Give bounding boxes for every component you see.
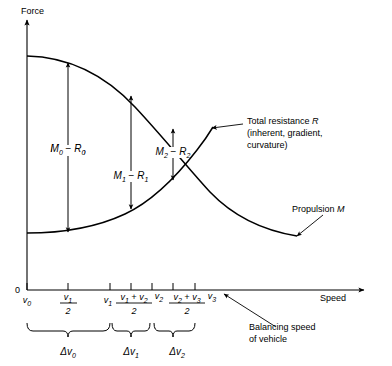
propulsion-leader-line (297, 215, 323, 236)
tick-label-v2: v2 (155, 291, 164, 303)
tick-label-v1-v2-half-den: 2 (130, 306, 136, 316)
tick-label-v1-v2-half: v1 + v2 2 (116, 292, 152, 316)
diagram-canvas: M0 − R0 M0 − R0 M1 − R1 M2 − R2 Force Sp… (0, 0, 392, 366)
delta-label-0: Δv0 (59, 346, 76, 359)
origin-label: 0 (15, 285, 20, 295)
brace-dv2 (154, 323, 195, 337)
x-axis-ticks (27, 283, 195, 290)
resistance-annotation-line3: curvature) (247, 140, 288, 150)
tick-label-v2-v3-half: v2 + v3 2 (169, 292, 205, 316)
gap-label-0-top: M0 − R0 (51, 143, 86, 156)
tick-label-v1-half-den: 2 (64, 306, 70, 316)
propulsion-annotation: Propulsion M (292, 204, 345, 214)
force-speed-diagram: M0 − R0 M0 − R0 M1 − R1 M2 − R2 Force Sp… (0, 0, 392, 366)
resistance-annotation-line2: (inherent, gradient, (247, 128, 323, 138)
brace-dv0 (27, 323, 110, 337)
delta-label-2: Δv2 (168, 346, 185, 359)
tick-label-v2-v3-half-num: v2 + v3 (173, 292, 200, 304)
tick-label-v1-v2-half-num: v1 + v2 (120, 292, 147, 304)
balancing-speed-line2: of vehicle (249, 334, 287, 344)
y-axis-label: Force (21, 6, 44, 16)
balancing-speed-line1: Balancing speed (249, 322, 316, 332)
braces-group (27, 323, 195, 337)
tick-label-v1-half-num: v1 (64, 292, 73, 304)
tick-label-v0: v0 (23, 295, 32, 307)
tick-label-v1: v1 (104, 295, 113, 307)
tick-label-v1-half: v1 2 (60, 292, 77, 316)
gap-label-2: M2 − R2 (156, 146, 191, 159)
delta-label-1: Δv1 (122, 346, 139, 359)
brace-dv1 (112, 323, 150, 337)
tick-label-v3: v3 (208, 291, 217, 303)
gap-label-1: M1 − R1 (114, 170, 149, 183)
tick-label-v2-v3-half-den: 2 (183, 306, 189, 316)
resistance-annotation-line1: Total resistance R (247, 116, 319, 126)
resistance-leader-line (212, 124, 243, 128)
x-axis-label: Speed (320, 293, 346, 303)
